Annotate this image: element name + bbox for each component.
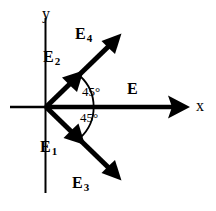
vector-label-E2: E2 (43, 49, 60, 67)
vector-label-E-base: E (127, 80, 138, 97)
y-axis-label: y (42, 6, 50, 22)
vector-label-E2-subscript: 2 (54, 55, 61, 67)
vector-label-E4-base: E (75, 25, 86, 42)
vector-label-E4: E4 (75, 26, 92, 44)
vector-diagram: y x E E4 E2 E1 E3 45° 45° (0, 0, 216, 211)
vector-label-E3-subscript: 3 (83, 181, 90, 193)
diagram-canvas (0, 0, 216, 211)
vector-label-E1-subscript: 1 (51, 145, 58, 157)
vector-label-E3-base: E (72, 174, 83, 191)
vector-label-E3: E3 (72, 175, 89, 193)
vector-label-E: E (127, 81, 138, 97)
x-axis-label: x (196, 98, 204, 114)
angle-label-lower: 45° (80, 111, 98, 124)
vector-label-E1: E1 (40, 139, 57, 157)
vector-label-E2-base: E (43, 48, 54, 65)
vector-label-E1-base: E (40, 138, 51, 155)
vector-label-E4-subscript: 4 (86, 32, 93, 44)
angle-label-upper: 45° (82, 85, 100, 98)
